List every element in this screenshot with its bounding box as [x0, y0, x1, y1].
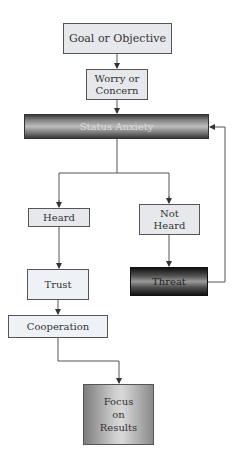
not-heard-label: Not Heard: [152, 208, 187, 232]
not-heard-node: Not Heard: [139, 204, 200, 235]
cooperation-node: Cooperation: [8, 315, 108, 338]
worry-label: Worry or Concern: [93, 73, 141, 97]
trust-node: Trust: [27, 269, 89, 300]
trust-label: Trust: [44, 279, 71, 291]
threat-node: Threat: [130, 267, 208, 296]
focus-label: Focus on Results: [100, 395, 137, 434]
cooperation-label: Cooperation: [27, 321, 89, 333]
status-anxiety-label: Status Anxiety: [80, 121, 154, 133]
threat-label: Threat: [152, 276, 186, 288]
goal-node: Goal or Objective: [63, 23, 172, 54]
heard-node: Heard: [28, 208, 90, 227]
status-anxiety-node: Status Anxiety: [24, 114, 209, 139]
heard-label: Heard: [43, 212, 75, 224]
worry-node: Worry or Concern: [86, 69, 148, 100]
goal-label: Goal or Objective: [69, 33, 166, 45]
focus-node: Focus on Results: [83, 384, 154, 445]
